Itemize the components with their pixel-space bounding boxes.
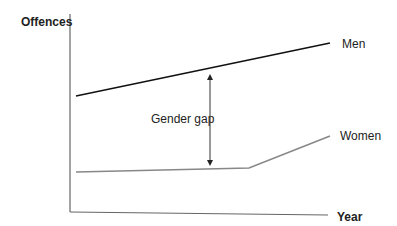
gender-gap-diagram: Offences Year Men Women Gender gap	[0, 0, 397, 226]
x-axis	[70, 212, 328, 215]
gender-gap-label: Gender gap	[151, 112, 215, 126]
x-axis-label: Year	[337, 210, 363, 224]
women-line	[76, 136, 330, 172]
men-label: Men	[342, 37, 365, 51]
women-label: Women	[340, 129, 381, 143]
men-line	[76, 43, 330, 96]
y-axis-label: Offences	[21, 15, 73, 29]
